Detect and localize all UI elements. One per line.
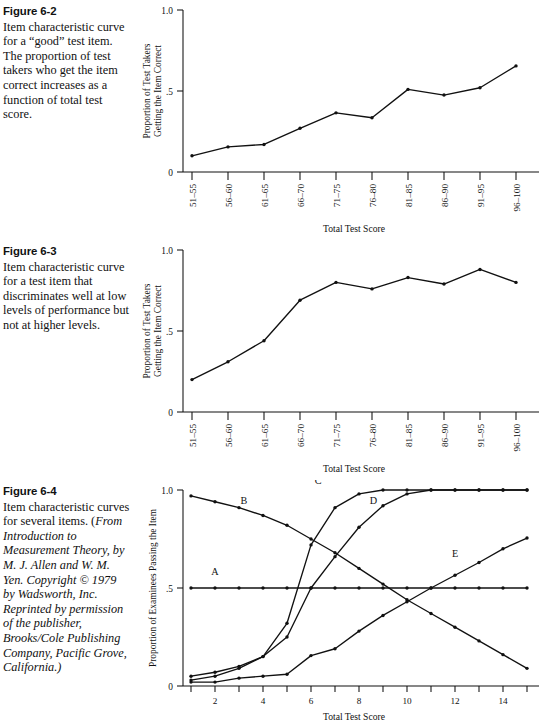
- chart-1-series: [190, 64, 517, 157]
- chart-3-curve-d-point: [381, 504, 384, 507]
- chart-3-curve-d-point: [237, 667, 240, 670]
- chart-2-xtick-7: 86–90: [440, 424, 450, 447]
- chart-2-y-axis-title-line1: Proportion of Test Takers: [142, 283, 152, 378]
- chart-1-xtick-8: 91–95: [476, 184, 486, 207]
- figure-6-4-plot: 1.0 .5 0 Proportion of Examinees Passing…: [136, 480, 545, 725]
- chart-3-curve-c-line: [191, 490, 527, 676]
- figure-6-2-caption-text: Item characteristic curve for a “good” t…: [3, 20, 125, 122]
- chart-2-y-axis-title-line2: Getting the Item Correct: [153, 285, 163, 377]
- chart-3-curve-b-point: [213, 500, 216, 503]
- figure-6-2-caption: Figure 6-2 Item characteristic curve for…: [3, 4, 131, 122]
- figure-6-3: Figure 6-3 Item characteristic curve for…: [0, 240, 545, 480]
- figure-6-3-caption: Figure 6-3 Item characteristic curve for…: [3, 244, 131, 333]
- chart-3-svg: 1.0 .5 0 Proportion of Examinees Passing…: [136, 480, 545, 725]
- chart-2-y-axis-title: Proportion of Test Takers: [142, 283, 152, 378]
- chart-3-curve-b-point: [285, 524, 288, 527]
- chart-3-curve-a-point: [405, 586, 408, 589]
- chart-3-curve-a-point: [189, 586, 192, 589]
- chart-2-xtick-0: 51–55: [188, 424, 198, 447]
- chart-3-curve-label-b: B: [240, 495, 247, 506]
- chart-2-xtick-2: 61–65: [260, 424, 270, 447]
- chart-2-curve-point: [262, 339, 265, 342]
- chart-3-y-axis-title-line1: Proportion of Examinees Passing the Item: [148, 508, 158, 667]
- chart-1-curve-point: [370, 116, 373, 119]
- chart-3-curve-d-point: [477, 488, 480, 491]
- chart-3-ytick-05: .5: [166, 584, 173, 594]
- chart-2-xtick-9: 96–100: [512, 424, 522, 452]
- chart-2-xtick-6: 81–85: [404, 424, 414, 447]
- chart-3-curve-b-point: [525, 667, 528, 670]
- chart-1-xtick-3: 66–70: [296, 184, 306, 207]
- chart-2-curve-point: [334, 281, 337, 284]
- chart-1-y-axis-title: Proportion of Test Takers: [142, 43, 152, 138]
- chart-3-xtick-6: 6: [309, 696, 314, 706]
- figure-6-2-label: Figure 6-2: [3, 4, 131, 19]
- figure-6-4-caption-credit: From Introduction to Measurement Theory,…: [3, 514, 127, 674]
- chart-1-curve-point: [406, 88, 409, 91]
- chart-3-curve-e-point: [477, 561, 480, 564]
- chart-1-y-axis: 1.0 .5 0: [161, 6, 183, 178]
- chart-3-curve-d-point: [261, 655, 264, 658]
- chart-1-xtick-1: 56–60: [224, 184, 234, 207]
- chart-1-svg: 1.0 .5 0 Proportion of Test Takers Getti…: [136, 0, 545, 240]
- chart-2-ytick-1: 1.0: [161, 246, 173, 256]
- chart-3-curve-a-point: [453, 586, 456, 589]
- chart-3-curve-b-point: [357, 567, 360, 570]
- chart-3-curve-d-point: [429, 488, 432, 491]
- chart-1-ytick-0: 0: [168, 168, 173, 178]
- chart-3-curve-b-point: [237, 506, 240, 509]
- chart-2-curve-line: [192, 269, 516, 379]
- chart-1-xtick-6: 81–85: [404, 184, 414, 207]
- chart-3-curve-c-point: [309, 543, 312, 546]
- chart-2-x-axis: 51–55 56–60 61–65 66–70 71–75 76–80 81–8…: [183, 412, 539, 452]
- chart-3-curve-c-point: [357, 492, 360, 495]
- chart-3-y-axis: 1.0 .5 0: [161, 486, 183, 692]
- chart-3-curve-b-line: [191, 496, 527, 668]
- chart-3-curve-e-point: [381, 614, 384, 617]
- chart-1-ytick-05: .5: [166, 87, 173, 97]
- chart-3-curve-b-point: [381, 582, 384, 585]
- chart-1-curve-point: [442, 93, 445, 96]
- chart-1-curve-point: [190, 154, 193, 157]
- chart-1-y-axis-title-line1: Proportion of Test Takers: [142, 43, 152, 138]
- chart-3-xtick-2: 2: [213, 696, 218, 706]
- chart-3-curve-label-d: D: [370, 495, 377, 506]
- chart-2-xtick-5: 76–80: [368, 424, 378, 447]
- chart-2-curve-point: [226, 360, 229, 363]
- chart-2-curve-point: [442, 282, 445, 285]
- chart-3-curve-d-point: [333, 555, 336, 558]
- chart-3-curve-e-point: [405, 600, 408, 603]
- chart-3-curve-label-e: E: [452, 548, 458, 559]
- chart-3-curve-e-point: [285, 673, 288, 676]
- chart-3-curve-d-point: [285, 635, 288, 638]
- chart-1-curve-point: [514, 64, 517, 67]
- chart-3-curve-b-point: [429, 612, 432, 615]
- chart-3-curve-e-line: [191, 538, 527, 682]
- chart-3-y-axis-title: Proportion of Examinees Passing the Item: [148, 508, 158, 667]
- chart-1-xtick-7: 86–90: [440, 184, 450, 207]
- chart-3-curve-label-a: A: [211, 566, 219, 577]
- chart-3-curve-label-c: C: [315, 480, 322, 486]
- figure-6-4-label: Figure 6-4: [3, 484, 131, 499]
- chart-1-xtick-0: 51–55: [188, 184, 198, 207]
- chart-3-xtick-12: 12: [450, 696, 460, 706]
- chart-2-x-axis-title: Total Test Score: [323, 463, 385, 474]
- chart-2-ytick-05: .5: [166, 327, 173, 337]
- chart-3-x-axis: 2 4 6 8 10 12 14: [183, 686, 539, 706]
- chart-3-curve-a-point: [213, 586, 216, 589]
- chart-3-xtick-4: 4: [261, 696, 266, 706]
- chart-1-xtick-4: 71–75: [332, 184, 342, 207]
- figure-6-3-plot: 1.0 .5 0 Proportion of Test Takers Getti…: [136, 240, 545, 480]
- chart-2-series: [190, 268, 517, 382]
- chart-3-curve-b-point: [189, 494, 192, 497]
- figure-6-2: Figure 6-2 Item characteristic curve for…: [0, 0, 545, 240]
- chart-3-curve-e-point: [213, 680, 216, 683]
- chart-3-curve-e-point: [237, 676, 240, 679]
- chart-3-series: ABCDE: [189, 480, 528, 684]
- chart-2-y-axis-title-2: Getting the Item Correct: [153, 285, 163, 377]
- chart-3-curve-e-point: [309, 654, 312, 657]
- chart-3-curve-d-point: [453, 488, 456, 491]
- chart-3-curve-c-point: [189, 675, 192, 678]
- chart-2-svg: 1.0 .5 0 Proportion of Test Takers Getti…: [136, 240, 545, 480]
- chart-3-curve-c-point: [405, 488, 408, 491]
